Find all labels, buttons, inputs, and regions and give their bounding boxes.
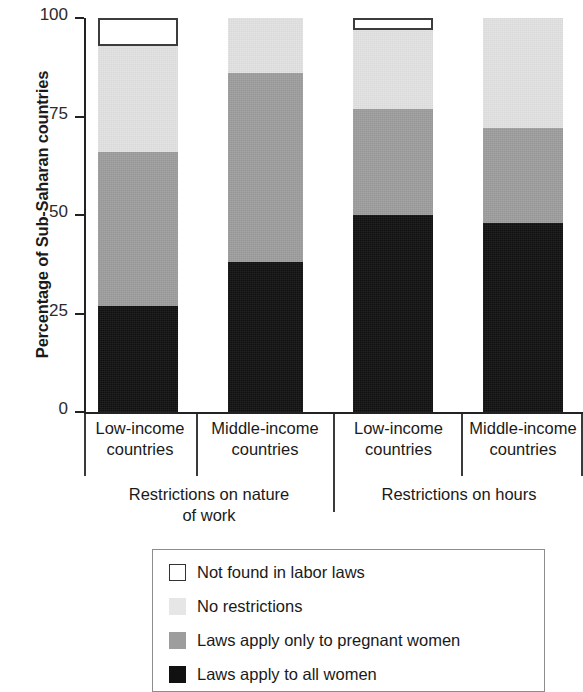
segment-laws-all-women (228, 262, 303, 412)
group-label-hours: Restrictions on hours (336, 484, 582, 505)
segment-laws-pregnant-women (98, 152, 178, 306)
x-label-line1: Middle-income (200, 418, 330, 439)
legend-item-all-women[interactable]: Laws apply to all women (169, 663, 377, 685)
y-tick-label-50: 50 (8, 202, 68, 222)
segment-laws-pregnant-women (483, 128, 563, 223)
bar-middle-income-hours[interactable] (483, 18, 563, 412)
y-tick-label-75: 75 (8, 104, 68, 124)
segment-laws-all-women (483, 223, 563, 412)
legend-label-no-restrictions: No restrictions (197, 597, 302, 616)
x-label-line2: countries (340, 439, 457, 460)
bar-low-income-hours[interactable] (353, 18, 433, 412)
category-separator-2 (461, 414, 463, 476)
group-separator (333, 414, 335, 512)
x-label-middle-income-nature: Middle-income countries (200, 418, 330, 460)
legend-label-all-women: Laws apply to all women (197, 665, 377, 684)
segment-not-found-in-labor-laws (98, 18, 178, 46)
y-tick-label-25: 25 (8, 301, 68, 321)
legend-item-no-restrictions[interactable]: No restrictions (169, 595, 302, 617)
x-label-middle-income-hours: Middle-income countries (464, 418, 582, 460)
stacked-bar-chart: Percentage of Sub-Saharan countries 100 … (0, 0, 583, 692)
segment-laws-pregnant-women (228, 73, 303, 262)
x-label-line2: countries (88, 439, 192, 460)
y-tick-mark-75 (75, 116, 84, 118)
legend-swatch-not-found-icon (169, 564, 186, 581)
y-tick-mark-25 (75, 313, 84, 315)
group-label-line2: of work (86, 505, 332, 526)
segment-no-restrictions (353, 30, 433, 109)
x-label-line1: Middle-income (464, 418, 582, 439)
y-tick-label-0: 0 (8, 399, 68, 419)
segment-laws-pregnant-women (353, 109, 433, 215)
bar-low-income-nature[interactable] (98, 18, 178, 412)
y-tick-mark-0 (75, 411, 84, 413)
legend-swatch-no-restrictions-icon (169, 598, 186, 615)
segment-laws-all-women (353, 215, 433, 412)
legend-swatch-all-women-icon (169, 666, 186, 683)
y-tick-label-100: 100 (8, 5, 68, 25)
bar-middle-income-nature[interactable] (228, 18, 303, 412)
y-tick-mark-50 (75, 214, 84, 216)
y-tick-mark-100 (75, 17, 84, 19)
segment-no-restrictions (98, 46, 178, 152)
legend-label-not-found: Not found in labor laws (197, 563, 365, 582)
legend-label-pregnant-women: Laws apply only to pregnant women (197, 631, 460, 650)
axis-left-cap (84, 414, 86, 476)
x-label-line1: Low-income (88, 418, 192, 439)
group-label-nature-of-work: Restrictions on nature of work (86, 484, 332, 526)
segment-no-restrictions (228, 18, 303, 73)
legend-swatch-pregnant-women-icon (169, 632, 186, 649)
chart-legend: Not found in labor laws No restrictions … (152, 549, 545, 692)
segment-not-found-in-labor-laws (353, 18, 433, 30)
segment-laws-all-women (98, 306, 178, 412)
category-separator-1 (196, 414, 198, 476)
group-label-line1: Restrictions on hours (336, 484, 582, 505)
x-label-low-income-hours: Low-income countries (340, 418, 457, 460)
x-label-line1: Low-income (340, 418, 457, 439)
x-label-low-income-nature: Low-income countries (88, 418, 192, 460)
segment-no-restrictions (483, 18, 563, 128)
legend-item-not-found[interactable]: Not found in labor laws (169, 561, 365, 583)
legend-item-pregnant-women[interactable]: Laws apply only to pregnant women (169, 629, 460, 651)
group-label-line1: Restrictions on nature (86, 484, 332, 505)
x-label-line2: countries (200, 439, 330, 460)
plot-area (84, 18, 583, 412)
x-label-line2: countries (464, 439, 582, 460)
